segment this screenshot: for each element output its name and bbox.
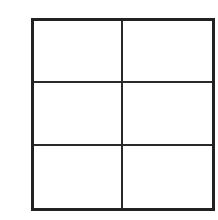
grid-cell-r2-c1 [34,83,123,145]
grid-cell-r2-c2 [123,83,212,145]
grid-cell-r3-c1 [34,146,123,208]
grid-cell-r3-c2 [123,146,212,208]
grid-cell-r1-c1 [34,21,123,83]
grid-table [31,18,215,211]
grid-cell-r1-c2 [123,21,212,83]
